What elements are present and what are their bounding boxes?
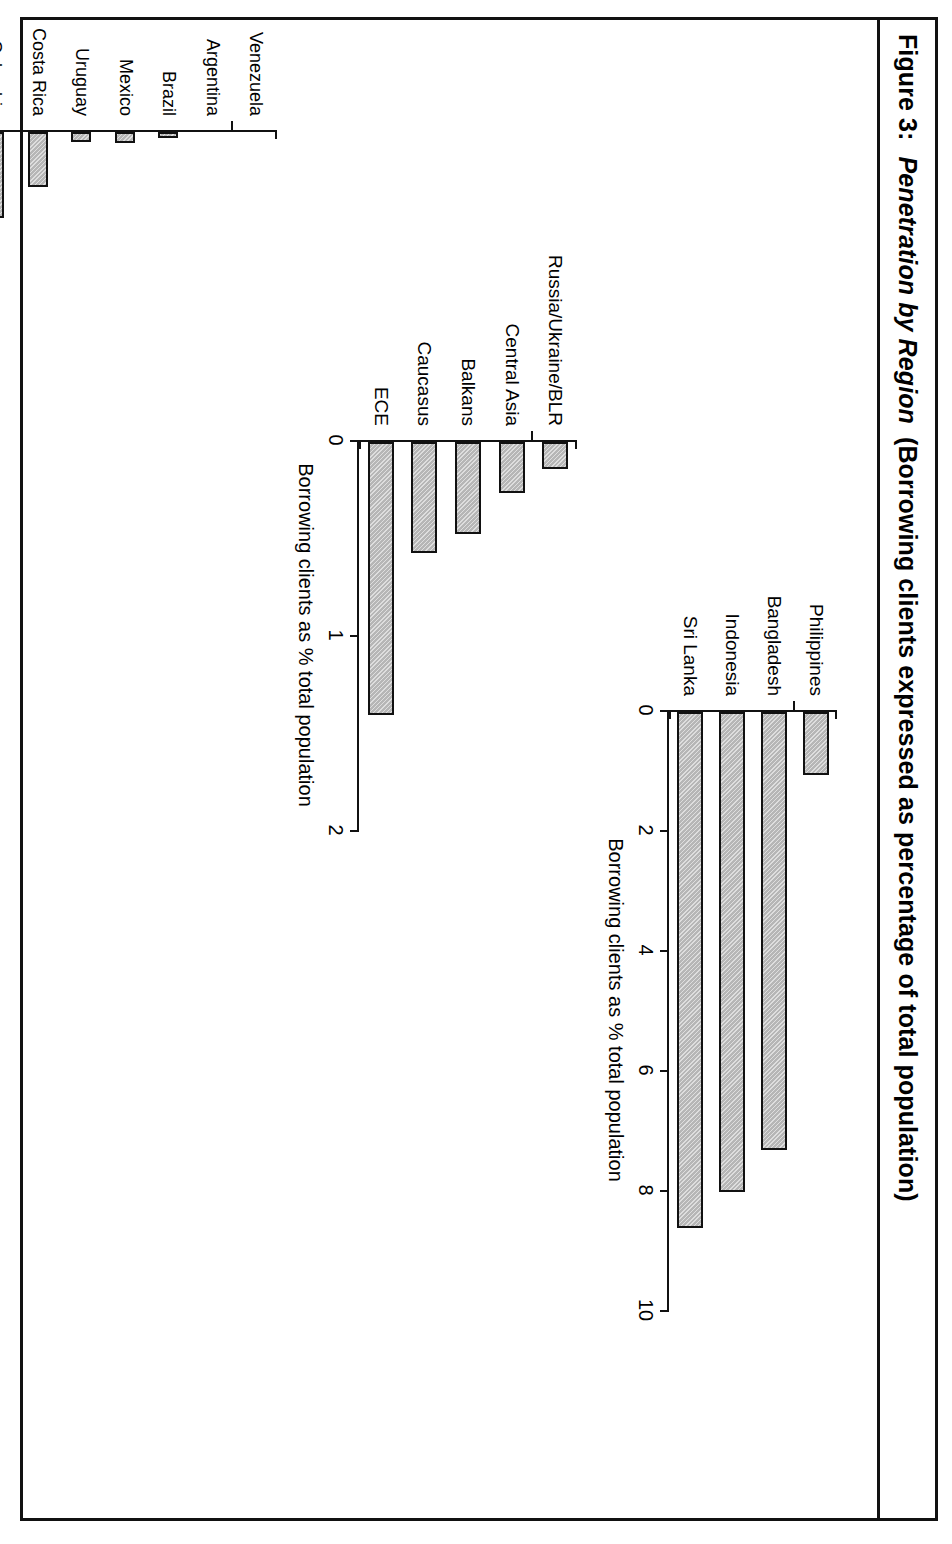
bar — [0, 132, 4, 218]
bar-row — [103, 132, 147, 848]
bar-row — [403, 442, 447, 830]
figure-title-italic: Penetration by Region — [894, 157, 922, 424]
value-tick — [350, 830, 359, 832]
value-tick — [660, 950, 669, 952]
value-tick — [660, 1190, 669, 1192]
value-tick-label: 0 — [634, 704, 657, 715]
value-tick — [660, 710, 669, 712]
bar — [542, 442, 568, 469]
bar-row — [359, 442, 403, 830]
bar — [71, 132, 91, 142]
scanned-page: Figure 3: Penetration by Region (Borrowi… — [0, 0, 952, 1544]
value-tick — [660, 1070, 669, 1072]
category-tick — [793, 701, 795, 710]
bar-row — [146, 132, 190, 848]
bar — [677, 712, 703, 1228]
figure-canvas: PhilippinesBangladeshIndonesiaSri Lanka0… — [23, 20, 877, 1518]
value-axis-asia — [667, 710, 669, 1310]
value-tick — [350, 440, 359, 442]
value-tick-label: 1 — [324, 629, 347, 640]
bar — [368, 442, 394, 715]
bar — [411, 442, 437, 553]
bar-row — [59, 132, 103, 848]
figure-frame: Figure 3: Penetration by Region (Borrowi… — [20, 17, 938, 1521]
bar — [719, 712, 745, 1192]
bar-row — [669, 712, 711, 1310]
bar-row — [795, 712, 837, 1310]
value-axis-title: Borrowing clients as % total population — [604, 838, 627, 1182]
category-tick — [231, 121, 233, 130]
bar-chart-asia: PhilippinesBangladeshIndonesiaSri Lanka0… — [669, 710, 837, 1310]
figure-title: Figure 3: Penetration by Region (Borrowi… — [893, 34, 922, 1202]
bar — [761, 712, 787, 1150]
rotated-page-wrapper: Figure 3: Penetration by Region (Borrowi… — [0, 0, 952, 1544]
category-tick — [531, 431, 533, 440]
value-axis-title: Borrowing clients as % total population — [294, 463, 317, 807]
value-tick — [350, 635, 359, 637]
figure-number: Figure 3: — [894, 34, 922, 140]
bar — [803, 712, 829, 775]
value-tick-label: 4 — [634, 944, 657, 955]
bar-chart-eca: Russia/Ukraine/BLRCentral AsiaBalkansCau… — [359, 440, 577, 830]
bar-row — [190, 132, 234, 848]
value-tick-label: 2 — [634, 824, 657, 835]
plot-area-lac: VenezuelaArgentinaBrazilMexicoUruguayCos… — [0, 130, 277, 848]
bar-row — [533, 442, 577, 830]
value-tick — [660, 830, 669, 832]
bar — [28, 132, 48, 187]
value-tick-label: 6 — [634, 1064, 657, 1075]
bar — [158, 132, 178, 138]
bar — [455, 442, 481, 534]
value-tick-label: 10 — [634, 1299, 657, 1321]
bar-row — [0, 132, 16, 848]
value-tick-label: 0 — [324, 434, 347, 445]
figure-title-rest: (Borrowing clients expressed as percenta… — [894, 437, 922, 1202]
bar-row — [711, 712, 753, 1310]
bar — [499, 442, 525, 493]
bar — [115, 132, 135, 143]
bar-row — [233, 132, 277, 848]
bar-chart-lac: VenezuelaArgentinaBrazilMexicoUruguayCos… — [0, 130, 277, 848]
value-tick — [660, 1310, 669, 1312]
bar-row — [753, 712, 795, 1310]
value-tick-label: 8 — [634, 1184, 657, 1195]
plot-area-asia: PhilippinesBangladeshIndonesiaSri Lanka0… — [669, 710, 837, 1310]
bar-row — [16, 132, 60, 848]
plot-area-eca: Russia/Ukraine/BLRCentral AsiaBalkansCau… — [359, 440, 577, 830]
bar-row — [446, 442, 490, 830]
bar-row — [490, 442, 534, 830]
figure-title-bar: Figure 3: Penetration by Region (Borrowi… — [877, 20, 935, 1518]
value-tick-label: 2 — [324, 824, 347, 835]
